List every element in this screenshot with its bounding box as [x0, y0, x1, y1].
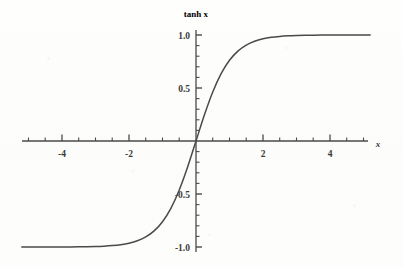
tanh-plot-figure: -4 -2 2 4 x: [0, 0, 403, 267]
x-axis-group: -4 -2 2 4 x: [22, 135, 381, 160]
x-tick-label-4: 4: [328, 149, 333, 159]
y-tick-label-0-5: 0.5: [178, 84, 190, 94]
x-tick-label-2: 2: [261, 149, 266, 159]
y-tick-label-1-0: 1.0: [178, 31, 190, 41]
x-tick-label-neg4: -4: [58, 149, 66, 159]
x-axis-title: x: [375, 139, 381, 149]
y-tick-label-neg-1-0: -1.0: [175, 243, 190, 253]
y-axis-group: 1.0 0.5 -0.5 -1.0 tanh x: [175, 9, 209, 253]
y-axis-title: tanh x: [184, 9, 209, 19]
x-tick-label-neg2: -2: [125, 149, 133, 159]
tanh-plot-svg: -4 -2 2 4 x: [0, 0, 403, 267]
